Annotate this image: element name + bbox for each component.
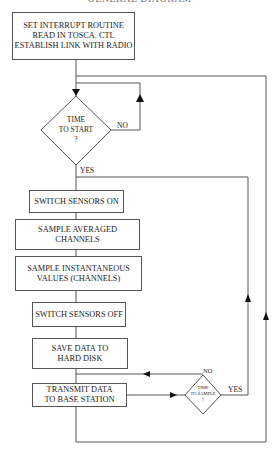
sample-instantaneous-box: SAMPLE INSTANTANEOUS VALUES (CHANNELS) (15, 256, 142, 291)
decision-text-1: TIME (46, 115, 106, 125)
time-to-sample-decision: TIME TO SAMPLE ? (185, 385, 221, 403)
time-to-start-decision: TIME TO START ? (46, 115, 106, 145)
sample-averaged-box: SAMPLE AVERAGED CHANNELS (15, 219, 140, 250)
init-line-2: READ IN TOSCA. CTL (32, 31, 114, 41)
sample-avg-text-1: SAMPLE AVERAGED (38, 225, 117, 235)
transmit-data-box: TRANSMIT DATA TO BASE STATION (32, 383, 127, 407)
save-data-box: SAVE DATA TO HARD DISK (32, 338, 128, 369)
transmit-text-2: TO BASE STATION (44, 395, 114, 405)
sensors-off-text: SWITCH SENSORS OFF (35, 310, 123, 320)
init-line-3: ESTABLISH LINK WITH RADIO (15, 41, 133, 51)
sample-no-label: NO (203, 367, 212, 374)
sample-inst-text-1: SAMPLE INSTANTANEOUS (27, 264, 130, 274)
sample-inst-text-2: VALUES (CHANNELS) (37, 274, 121, 284)
switch-sensors-on-box: SWITCH SENSORS ON (29, 190, 124, 213)
sensors-on-text: SWITCH SENSORS ON (34, 197, 118, 207)
decision-text-3: ? (46, 135, 106, 145)
sample-yes-label: YES (228, 385, 242, 394)
start-no-label: NO (117, 121, 128, 130)
transmit-text-1: TRANSMIT DATA (47, 385, 113, 395)
save-text-1: SAVE DATA TO (52, 344, 109, 354)
sample-avg-text-2: CHANNELS (55, 235, 99, 245)
start-yes-label: YES (80, 166, 94, 175)
save-text-2: HARD DISK (58, 354, 103, 364)
init-line-1: SET INTERRUPT ROUTINE (23, 21, 124, 31)
switch-sensors-off-box: SWITCH SENSORS OFF (32, 302, 126, 327)
init-box: SET INTERRUPT ROUTINE READ IN TOSCA. CTL… (12, 12, 135, 60)
sample-decision-text-3: ? (185, 397, 221, 403)
decision-text-2: TO START (46, 125, 106, 135)
